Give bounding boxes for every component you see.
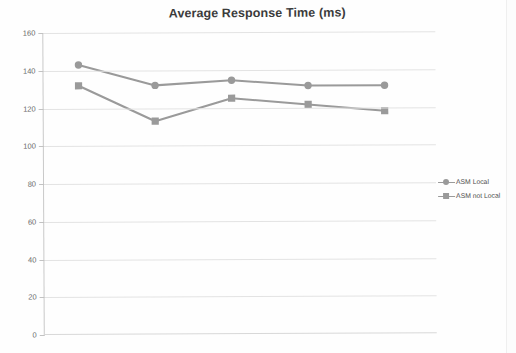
data-point-square — [75, 82, 82, 89]
legend-label: ASM Local — [456, 178, 489, 185]
y-axis-tick — [38, 71, 43, 72]
data-point-square — [381, 107, 388, 114]
y-axis-tick-label: 100 — [23, 142, 36, 151]
y-axis-tick-label: 140 — [23, 66, 36, 75]
y-axis-tick-label: 0 — [33, 331, 37, 340]
y-axis-tick — [39, 222, 44, 223]
y-axis-tick — [39, 146, 44, 147]
legend-item-asm-not-local[interactable]: ASM not Local — [438, 189, 500, 203]
chart-legend: ASM Local ASM not Local — [438, 175, 500, 203]
y-axis-tick — [39, 184, 44, 185]
y-axis-tick — [39, 109, 44, 110]
legend-marker-square-icon — [438, 192, 455, 201]
data-point-square — [228, 95, 235, 102]
data-point-circle — [151, 82, 158, 89]
plot-area: 020406080100120140160 — [43, 31, 436, 335]
series-asm-local — [75, 60, 389, 91]
y-axis-tick — [38, 33, 43, 34]
series-asm-not-local — [75, 81, 388, 126]
legend-item-asm-local[interactable]: ASM Local — [438, 175, 500, 189]
data-point-circle — [75, 61, 82, 68]
chart-title: Average Response Time (ms) — [0, 5, 515, 22]
y-axis-tick — [40, 297, 45, 298]
y-axis-tick-label: 40 — [28, 255, 36, 264]
chart-container: Average Response Time (ms) 0204060801001… — [0, 0, 516, 353]
y-axis-tick — [40, 335, 45, 336]
y-axis-tick-label: 120 — [23, 104, 36, 113]
y-axis-tick-label: 80 — [28, 180, 36, 189]
data-point-circle — [228, 77, 235, 84]
y-axis-tick — [39, 260, 44, 261]
y-axis-tick-label: 20 — [28, 293, 36, 302]
data-point-square — [152, 118, 159, 125]
legend-marker-circle-icon — [438, 178, 455, 187]
y-axis-tick-label: 60 — [28, 217, 36, 226]
legend-label: ASM not Local — [456, 192, 500, 199]
y-axis-tick-label: 160 — [23, 29, 36, 38]
data-point-circle — [304, 82, 311, 89]
series-line — [79, 84, 385, 121]
scanned-page: Average Response Time (ms) 0204060801001… — [0, 0, 516, 353]
data-point-circle — [381, 81, 388, 88]
